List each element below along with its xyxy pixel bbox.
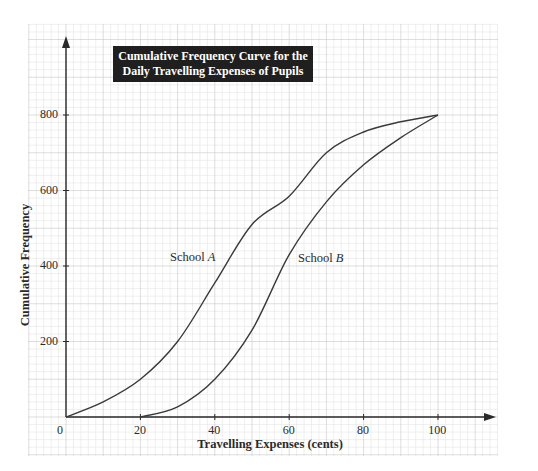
grid-major	[28, 24, 498, 456]
x-axis-label: Travelling Expenses (cents)	[160, 437, 380, 452]
y-tick-label: 400	[40, 258, 58, 273]
series-label-school-a: School A	[170, 250, 216, 265]
y-axis-label: Cumulative Frequency	[18, 190, 33, 340]
chart-title-line-1: Cumulative Frequency Curve for the	[113, 49, 313, 64]
y-tick-label: 200	[40, 334, 58, 349]
x-tick-label: 60	[283, 423, 295, 438]
chart-title: Cumulative Frequency Curve for the Daily…	[113, 46, 313, 82]
grid-minor	[28, 24, 498, 456]
x-tick-label: 20	[134, 423, 146, 438]
x-tick-label: 40	[208, 423, 220, 438]
y-tick-label: 800	[40, 107, 58, 122]
y-tick-label: 600	[40, 183, 58, 198]
x-tick-label: 80	[357, 423, 369, 438]
series-label-school-b: School B	[298, 251, 344, 266]
x-tick-label: 0	[57, 423, 63, 438]
x-tick-label: 100	[428, 423, 446, 438]
chart-title-line-2: Daily Travelling Expenses of Pupils	[113, 64, 313, 79]
